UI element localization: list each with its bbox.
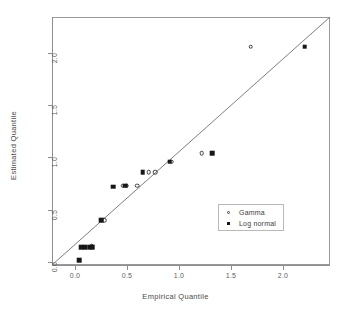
data-point-gamma: [147, 170, 152, 175]
qq-plot: 0.00.51.01.52.0 0.00.51.01.52.0 Empirica…: [0, 0, 351, 318]
x-tick-label: 2.0: [278, 272, 288, 279]
data-point-log-normal: [90, 245, 95, 250]
data-point-gamma: [200, 151, 205, 156]
data-point-log-normal: [210, 151, 215, 156]
data-point-log-normal: [303, 44, 308, 49]
x-tick-label: 0.0: [70, 272, 80, 279]
legend: Gamma Log normal: [218, 204, 284, 231]
y-axis-title: Estimated Quantile: [9, 86, 18, 206]
legend-label-gamma: Gamma: [239, 209, 265, 216]
open-circle-icon: [224, 211, 233, 215]
x-tick-mark: [283, 266, 284, 270]
data-point-gamma: [248, 44, 253, 49]
x-axis-title: Empirical Quantile: [0, 292, 351, 301]
data-point-log-normal: [111, 184, 116, 189]
x-tick-label: 1.0: [174, 272, 184, 279]
y-tick-label: 0.5: [51, 210, 58, 220]
y-tick-label: 1.5: [51, 105, 58, 115]
y-tick-label: 0.0: [51, 262, 58, 272]
x-tick-mark: [127, 266, 128, 270]
x-axis-line: [52, 265, 330, 266]
data-point-log-normal: [99, 218, 104, 223]
data-point-log-normal: [140, 170, 145, 175]
plot-panel-frame: [52, 17, 330, 265]
legend-item-gamma: Gamma: [224, 207, 265, 218]
data-point-log-normal: [167, 159, 172, 164]
y-tick-label: 2.0: [51, 53, 58, 63]
x-tick-mark: [75, 266, 76, 270]
data-point-log-normal: [77, 258, 82, 263]
legend-label-log-normal: Log normal: [239, 220, 276, 227]
x-tick-mark: [231, 266, 232, 270]
legend-item-log-normal: Log normal: [224, 218, 276, 229]
filled-square-icon: [224, 222, 233, 226]
x-tick-label: 0.5: [122, 272, 132, 279]
data-point-log-normal: [123, 183, 128, 188]
x-tick-label: 1.5: [226, 272, 236, 279]
data-point-gamma: [135, 183, 140, 188]
x-tick-mark: [179, 266, 180, 270]
data-point-gamma: [153, 170, 158, 175]
y-tick-label: 1.0: [51, 157, 58, 167]
